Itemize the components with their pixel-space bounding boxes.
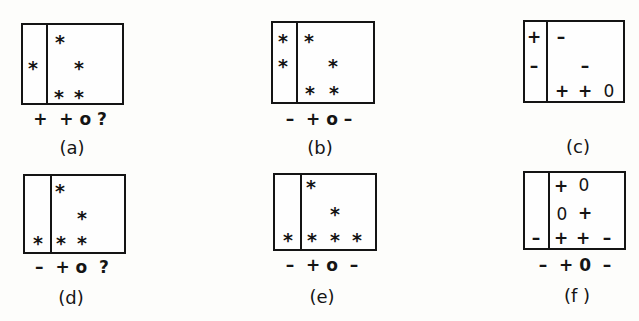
panel-caption: (b) [307, 137, 332, 158]
grid-symbol: * [56, 234, 66, 253]
left-column-symbol: * [28, 59, 38, 78]
grid-symbol: – [603, 230, 612, 247]
grid-symbol: + [555, 83, 569, 100]
panel-caption: (e) [309, 286, 334, 307]
grid-symbol: * [305, 84, 315, 103]
column-divider [50, 176, 52, 252]
grid-symbol: 0 [579, 177, 590, 194]
column-divider [300, 175, 302, 249]
grid-symbol: + [554, 230, 568, 247]
grid-symbol: – [581, 58, 590, 75]
grid-symbol: * [74, 59, 84, 78]
left-column-symbol: * [278, 57, 288, 76]
panel-caption: (a) [59, 137, 84, 158]
panel-caption: (c) [566, 136, 590, 157]
grid-symbol: * [74, 88, 84, 107]
left-column-symbol: * [33, 234, 43, 253]
grid-symbol: 0 [557, 206, 568, 223]
panel-caption: (f ) [564, 285, 590, 306]
column-labels: – + 0 – [539, 255, 612, 275]
grid-symbol: * [330, 231, 340, 250]
grid-symbol: – [557, 29, 566, 46]
grid-symbol: + [578, 205, 592, 222]
column-divider [46, 25, 48, 103]
grid-symbol: * [77, 209, 87, 228]
grid-symbol: * [307, 231, 317, 250]
grid-symbol: * [54, 88, 64, 107]
grid-symbol: * [77, 234, 87, 253]
grid-symbol: * [329, 84, 339, 103]
column-divider [296, 23, 298, 102]
left-column-symbol: * [278, 32, 288, 51]
grid-symbol: * [330, 205, 340, 224]
grid-symbol: + [576, 230, 590, 247]
column-labels: – + o – [286, 255, 359, 275]
left-column-symbol: – [532, 230, 541, 247]
grid-symbol: * [55, 33, 65, 52]
column-labels: + + o ? [33, 109, 107, 129]
column-divider [548, 173, 550, 248]
column-labels: – + o ? [35, 257, 109, 277]
grid-symbol: 0 [604, 83, 615, 100]
grid-symbol: + [578, 83, 592, 100]
grid-symbol: * [328, 57, 338, 76]
panel-caption: (d) [58, 287, 83, 308]
column-divider [546, 22, 548, 101]
grid-symbol: * [304, 32, 314, 51]
left-column-symbol: – [530, 58, 539, 75]
grid-symbol: * [55, 182, 65, 201]
grid-symbol: + [554, 178, 568, 195]
column-labels: – + o – [286, 109, 353, 129]
grid-symbol: * [306, 178, 316, 197]
left-column-symbol: + [527, 29, 541, 46]
left-column-symbol: * [283, 231, 293, 250]
grid-symbol: * [352, 231, 362, 250]
